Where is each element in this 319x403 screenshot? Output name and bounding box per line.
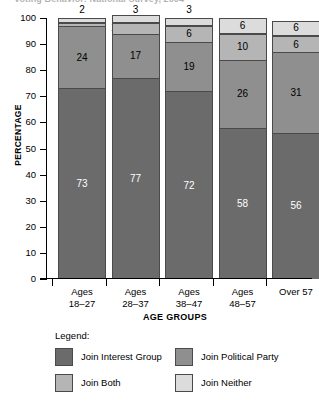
bar-group[interactable]: 563166	[272, 18, 319, 279]
bar-segment-value: 72	[183, 181, 194, 191]
bar-segment[interactable]: 17	[112, 34, 160, 78]
stacked-bar[interactable]: 72196	[165, 18, 213, 279]
bar-group[interactable]: 5826106	[219, 18, 267, 279]
y-axis-title: PERCENTAGE	[13, 65, 23, 205]
bar-segment-value: 26	[237, 89, 248, 99]
bar-segment-value: 73	[76, 179, 87, 189]
legend-item-label: Join Both	[81, 378, 121, 388]
bar-segment-value: 10	[237, 42, 248, 52]
bar-segment-value: 77	[130, 174, 141, 184]
y-axis-tick-label: 60	[0, 117, 36, 126]
y-axis-tick-label: 30	[0, 196, 36, 205]
bar-segment[interactable]: 19	[165, 42, 213, 92]
bar-segment-value: 19	[183, 62, 194, 72]
y-axis-tick	[40, 44, 47, 45]
bar-group[interactable]: 77173	[112, 18, 160, 279]
y-axis-tick	[40, 70, 47, 71]
legend-item[interactable]: Join Both	[55, 374, 175, 392]
stacked-bar[interactable]: 7717	[112, 18, 160, 279]
bar-segment[interactable]: 31	[272, 52, 319, 133]
bar-segment-value: 17	[130, 51, 141, 61]
y-axis-tick	[40, 279, 47, 280]
y-axis-tick	[40, 96, 47, 97]
bar-group[interactable]: 732421	[58, 18, 106, 279]
legend-swatch	[175, 374, 193, 392]
y-axis-tick	[40, 201, 47, 202]
bar-segment[interactable]: 6	[219, 18, 267, 34]
stacked-bar[interactable]: 5826106	[219, 18, 267, 279]
bar-segment-value: 31	[290, 88, 301, 98]
bar-segment[interactable]: 56	[272, 133, 319, 279]
bar-segment[interactable]	[58, 18, 106, 23]
x-axis-tick	[106, 279, 107, 286]
bar-segment[interactable]: 6	[272, 21, 319, 37]
legend-item-label: Join Interest Group	[81, 352, 162, 362]
legend-item[interactable]: Join Political Party	[175, 348, 295, 366]
legend-items: Join Interest GroupJoin Political PartyJ…	[55, 348, 305, 392]
stacked-bar[interactable]: 7324	[58, 18, 106, 279]
x-axis-category-label: Ages38–47	[159, 286, 219, 309]
x-axis-tick	[159, 279, 160, 286]
bar-segment-value: 6	[293, 40, 299, 50]
bar-segment[interactable]: 58	[219, 128, 267, 279]
y-axis-tick	[40, 149, 47, 150]
bar-segment[interactable]: 77	[112, 78, 160, 279]
chart-title: Voting Behavior: National Survey, 2004	[14, 0, 184, 4]
bar-segment[interactable]: 10	[219, 34, 267, 60]
y-axis-tick	[40, 175, 47, 176]
y-axis-tick-label: 40	[0, 170, 36, 179]
x-axis-line	[40, 278, 312, 279]
legend-item[interactable]: Join Neither	[175, 374, 295, 392]
bar-segment-value: 58	[237, 199, 248, 209]
y-axis-tick-label: 80	[0, 65, 36, 74]
bar-top-value-label: 3	[112, 5, 160, 15]
plot-area: 732421771737219635826106563166	[47, 18, 310, 279]
legend-swatch	[55, 374, 73, 392]
bar-segment[interactable]	[58, 23, 106, 26]
stacked-bar[interactable]: 563166	[272, 18, 319, 279]
y-axis-tick	[40, 253, 47, 254]
x-axis-tick	[266, 279, 267, 286]
bar-segment[interactable]: 73	[58, 88, 106, 279]
x-axis-category-label: Ages18–27	[52, 286, 112, 309]
bar-segment-value: 56	[290, 201, 301, 211]
bar-top-value-label: 3	[165, 5, 213, 15]
legend-item[interactable]: Join Interest Group	[55, 348, 175, 366]
y-axis-tick-label: 20	[0, 222, 36, 231]
bar-segment[interactable]: 6	[165, 26, 213, 42]
bar-segment[interactable]: 24	[58, 26, 106, 89]
y-axis-tick-label: 0	[0, 274, 36, 283]
y-axis-tick	[40, 227, 47, 228]
bar-group[interactable]: 721963	[165, 18, 213, 279]
bar-segment[interactable]	[112, 15, 160, 23]
bar-segment[interactable]: 72	[165, 91, 213, 279]
legend-item-label: Join Neither	[201, 378, 252, 388]
y-axis-tick-label: 50	[0, 144, 36, 153]
stacked-bar-chart: Voting Behavior: National Survey, 2004 P…	[0, 0, 319, 403]
y-axis-tick-label: 10	[0, 248, 36, 257]
bar-segment-value: 6	[240, 21, 246, 31]
y-axis-tick-label: 70	[0, 91, 36, 100]
legend-swatch	[55, 348, 73, 366]
bar-segment-value: 6	[293, 23, 299, 33]
bar-top-value-label: 2	[58, 5, 106, 15]
x-axis-category-label: Ages48–57	[213, 286, 273, 309]
legend-item-label: Join Political Party	[201, 352, 279, 362]
bar-segment-value: 6	[186, 29, 192, 39]
legend: Legend: Join Interest GroupJoin Politica…	[55, 330, 305, 392]
bar-segment[interactable]: 6	[272, 36, 319, 52]
legend-swatch	[175, 348, 193, 366]
bar-segment[interactable]	[112, 23, 160, 33]
x-axis-tick	[52, 279, 53, 286]
y-axis-tick-label: 90	[0, 39, 36, 48]
y-axis-tick-label: 100	[0, 13, 36, 22]
x-axis-category-label: Ages28–37	[106, 286, 166, 309]
bar-segment[interactable]: 26	[219, 60, 267, 128]
bar-segment[interactable]	[165, 18, 213, 26]
y-axis-tick	[40, 18, 47, 19]
x-axis-title: AGE GROUPS	[40, 312, 310, 322]
x-axis-category-label: Over 57	[266, 286, 319, 298]
bar-segment-value: 24	[76, 53, 87, 63]
y-axis-tick	[40, 122, 47, 123]
legend-heading: Legend:	[55, 330, 305, 341]
